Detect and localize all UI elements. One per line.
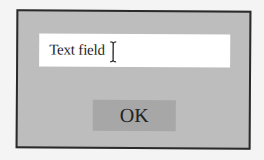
ibeam-cursor-icon: [109, 40, 117, 62]
text-field-value: Text field: [49, 41, 105, 58]
ok-button[interactable]: OK: [93, 100, 176, 132]
text-field[interactable]: Text field: [39, 33, 230, 67]
dialog: Text field OK: [16, 9, 252, 149]
